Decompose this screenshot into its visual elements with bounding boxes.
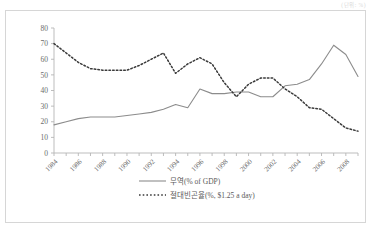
x-axis-tick-label: 1984 bbox=[44, 157, 60, 173]
x-axis-tick-label: 1990 bbox=[117, 157, 133, 173]
y-axis-tick-label: 50 bbox=[41, 71, 49, 80]
x-axis-tick-label: 1996 bbox=[190, 157, 206, 173]
series-line-2 bbox=[54, 44, 358, 132]
x-axis-tick-label: 1986 bbox=[68, 157, 84, 173]
y-axis-tick-label: 10 bbox=[41, 133, 49, 142]
y-axis-tick-label: 80 bbox=[41, 24, 49, 33]
y-axis-tick-label: 70 bbox=[41, 39, 49, 48]
line-chart: 0102030405060708019841986198819901992199… bbox=[6, 11, 367, 224]
series-line-1 bbox=[54, 45, 358, 125]
x-axis-tick-label: 2004 bbox=[287, 157, 303, 173]
x-axis-tick-label: 2008 bbox=[336, 157, 352, 173]
x-axis-tick-label: 2002 bbox=[263, 157, 279, 173]
x-axis-tick-label: 1994 bbox=[165, 157, 181, 173]
x-axis-tick-label: 1988 bbox=[92, 157, 108, 173]
y-axis-tick-label: 0 bbox=[44, 149, 48, 158]
y-axis-tick-label: 40 bbox=[41, 86, 49, 95]
x-axis-tick-label: 1998 bbox=[214, 157, 230, 173]
plot-area: 0102030405060708019841986198819901992199… bbox=[6, 11, 367, 224]
x-axis-tick-label: 2000 bbox=[238, 157, 254, 173]
x-axis-tick-label: 2006 bbox=[311, 157, 327, 173]
y-axis-tick-label: 20 bbox=[41, 117, 49, 126]
chart-frame: 0102030405060708019841986198819901992199… bbox=[5, 10, 366, 223]
chart-page: (단위: %) 01020304050607080198419861988199… bbox=[0, 0, 372, 229]
y-axis-tick-label: 60 bbox=[41, 55, 49, 64]
x-axis-tick-label: 1992 bbox=[141, 157, 157, 173]
legend-label-1: 무역(% of GDP) bbox=[170, 176, 221, 186]
y-axis-tick-label: 30 bbox=[41, 102, 49, 111]
legend-label-2: 절대빈곤율(%, $1.25 a day) bbox=[170, 191, 255, 200]
unit-note: (단위: %) bbox=[341, 1, 366, 9]
